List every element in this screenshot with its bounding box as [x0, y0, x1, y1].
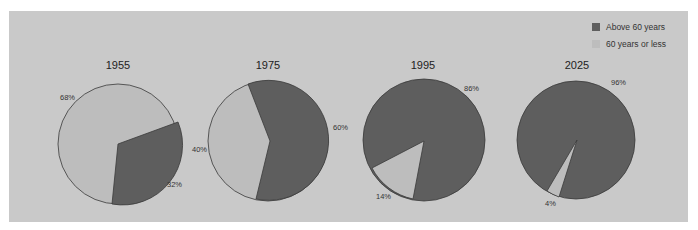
slice-label: 68% [60, 93, 75, 102]
slice-label: 32% [167, 180, 182, 189]
pie-title: 1975 [256, 59, 280, 71]
slice-label: 86% [464, 84, 479, 93]
slice-label: 40% [192, 145, 207, 154]
pie-2025: 2025 96% 4% [517, 59, 635, 208]
pie-title: 1995 [411, 59, 435, 71]
pie-title: 1955 [106, 59, 130, 71]
slice-label: 4% [545, 199, 556, 208]
pie-charts: 1955 68% 32% 1975 40% 60% 1995 86% 14% 2… [0, 0, 698, 230]
slice-label: 96% [611, 78, 626, 87]
pie-1955: 1955 68% 32% [58, 59, 183, 205]
slice-label: 14% [376, 192, 391, 201]
pie-1975: 1975 40% 60% [192, 59, 348, 201]
slice-label: 60% [333, 123, 348, 132]
pie-1995: 1995 86% 14% [363, 59, 485, 201]
pie-title: 2025 [565, 59, 589, 71]
